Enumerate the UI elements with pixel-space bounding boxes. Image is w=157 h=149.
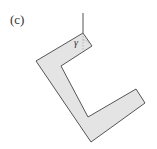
l-shape-diagram: γ: [0, 0, 157, 149]
l-shaped-object: [36, 33, 145, 142]
